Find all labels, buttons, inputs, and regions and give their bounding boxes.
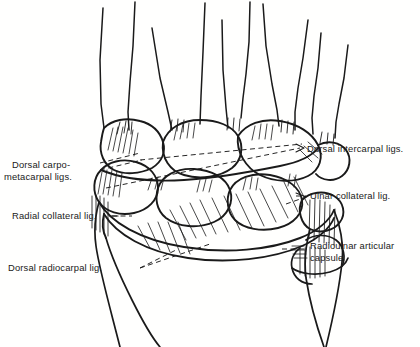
label-dorsal-carpometacarpal-line2: metacarpal ligs. [4, 171, 72, 182]
label-ulnar-collateral: Ulnar collateral lig. [310, 190, 390, 201]
dorsal-ligament-sheet [99, 202, 334, 261]
label-dorsal-carpometacarpal-line1: Dorsal carpo- [12, 159, 70, 170]
label-dorsal-intercarpal: Dorsal intercarpal ligs. [307, 143, 403, 154]
wrist-ligament-diagram: Dorsal carpo- metacarpal ligs. Radial co… [0, 0, 420, 347]
label-radioulnar-capsule-line2: capsule [310, 252, 343, 263]
radius-bone [92, 195, 160, 347]
label-radial-collateral: Radial collateral lig. [12, 210, 97, 221]
label-dorsal-radiocarpal: Dorsal radiocarpal lig. [8, 262, 102, 273]
proximal-carpal-row [94, 148, 343, 231]
ligament-hatching [98, 123, 322, 258]
label-radioulnar-capsule-line1: Radioulnar articular [310, 240, 394, 251]
anatomical-figure: Dorsal carpo- metacarpal ligs. Radial co… [0, 0, 420, 347]
